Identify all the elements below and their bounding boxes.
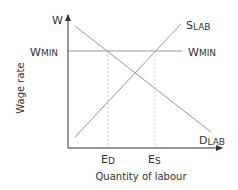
min-wage-label-right-sub: MIN (199, 48, 216, 58)
supply-curve (75, 24, 181, 137)
y-axis-symbol: W (52, 14, 63, 27)
min-wage-label-right: WMIN (188, 46, 216, 59)
demand-label-sub: LAB (207, 137, 225, 147)
supply-label: SLAB (186, 19, 211, 32)
min-wage-label-left-sub: MIN (41, 48, 58, 58)
min-wage-label-left: WMIN (30, 46, 58, 59)
min-wage-label-left-main: W (30, 46, 41, 59)
supply-label-sub: LAB (193, 22, 211, 32)
demand-label-main: D (199, 134, 207, 147)
supply-label-main: S (186, 19, 193, 32)
employment-supplied-main: E (148, 153, 155, 166)
demand-curve (75, 26, 211, 132)
x-axis-label: Quantity of labour (95, 171, 187, 182)
employment-demanded-label: ED (101, 153, 115, 166)
min-wage-label-right-main: W (188, 46, 199, 59)
employment-supplied-sub: S (155, 156, 161, 166)
y-axis-label: Wage rate (15, 62, 26, 113)
employment-supplied-label: ES (148, 153, 161, 166)
employment-demanded-main: E (101, 153, 108, 166)
employment-demanded-sub: D (108, 156, 115, 166)
demand-label: DLAB (199, 134, 225, 147)
labour-market-diagram: W WMIN WMIN SLAB DLAB ED ES Quantity of … (0, 0, 238, 190)
